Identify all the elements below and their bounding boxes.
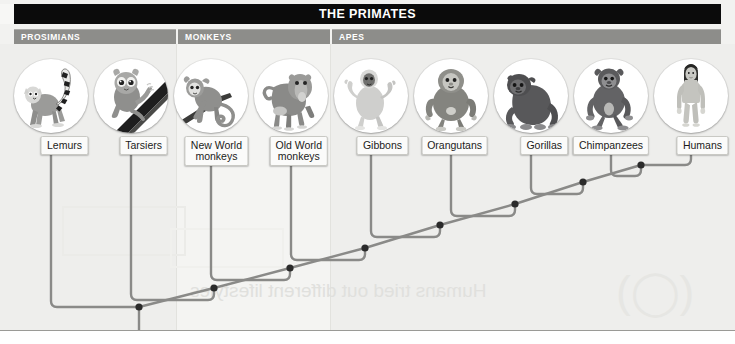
human-icon [677,64,705,127]
primates-figure: Humans tried out different lifestyles (◯… [0,0,735,344]
orangutan-medallion [414,59,488,133]
gibbon-medallion [334,59,408,133]
taxon-label-new-world-monkeys: New World monkeys [185,136,248,166]
taxon-label-lemurs: Lemurs [41,136,88,155]
taxon-new-world-monkeys[interactable]: New World monkeys [174,59,248,166]
gorilla-medallion [494,59,568,133]
group-band-prosimians: PROSIMIANS [14,29,176,44]
group-label-monkeys: MONKEYS [178,32,232,42]
taxon-label-chimpanzees: Chimpanzees [573,136,649,155]
chimpanzee-medallion [574,59,648,133]
taxon-label-tarsiers: Tarsiers [119,136,168,155]
taxon-old-world-monkeys[interactable]: Old World monkeys [254,59,328,166]
taxon-label-old-world-monkeys: Old World monkeys [270,136,329,166]
chimpanzee-icon [586,69,633,131]
group-band-apes: APES [332,29,721,44]
taxon-label-gibbons: Gibbons [357,136,408,155]
page-title: THE PRIMATES [319,7,416,21]
taxon-label-orangutans: Orangutans [421,136,488,155]
taxon-lemurs[interactable]: Lemurs [14,59,88,155]
orangutan-icon [425,69,477,131]
taxon-humans[interactable]: Humans [654,59,728,155]
taxon-label-gorillas: Gorillas [520,136,568,155]
oldworld-medallion [254,59,328,133]
newworld-icon [180,76,233,125]
group-band-monkeys: MONKEYS [178,29,330,44]
gorilla-icon [504,74,560,130]
group-label-apes: APES [332,32,364,42]
figure-title-bar: THE PRIMATES [14,4,721,24]
tarsier-medallion [94,59,168,133]
taxon-label-humans: Humans [677,136,728,155]
human-medallion [654,59,728,133]
lemur-medallion [14,59,88,133]
newworld-medallion [174,59,248,133]
taxon-orangutans[interactable]: Orangutans [414,59,488,155]
gibbon-icon [344,70,395,131]
oldworld-icon [264,74,314,131]
group-label-prosimians: PROSIMIANS [14,32,80,42]
title-bar-left-cap [0,4,14,24]
bottom-white-strip [0,331,735,344]
band-divider-2 [330,44,331,344]
taxon-chimpanzees[interactable]: Chimpanzees [574,59,648,155]
lemur-icon [24,69,70,128]
tarsier-icon [112,69,168,133]
taxon-gorillas[interactable]: Gorillas [494,59,568,155]
taxon-gibbons[interactable]: Gibbons [334,59,408,155]
taxon-tarsiers[interactable]: Tarsiers [94,59,168,155]
